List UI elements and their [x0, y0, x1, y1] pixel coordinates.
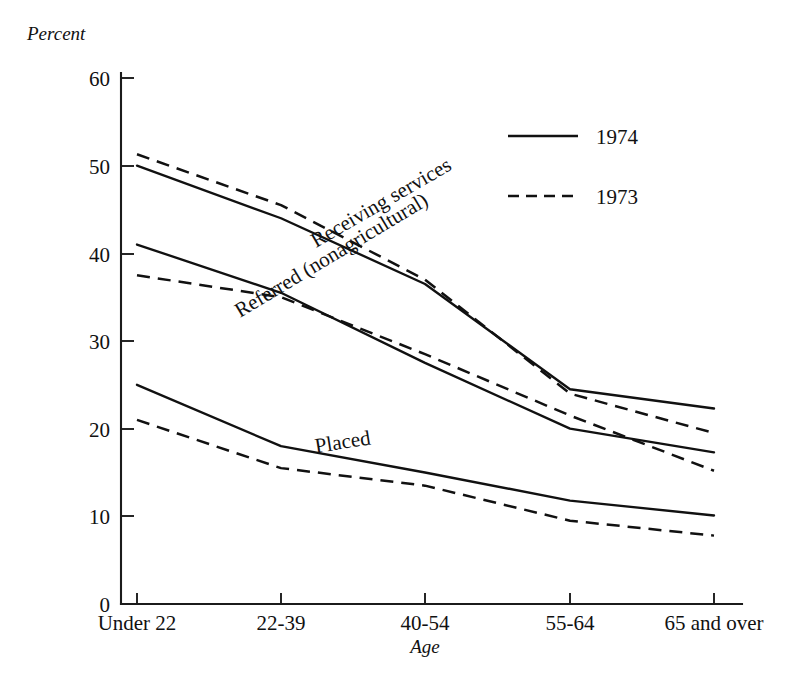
y-tick-label: 10 — [89, 505, 110, 529]
x-tick-label: 55-64 — [546, 611, 595, 635]
y-axis-tick-labels: 60 50 40 30 20 10 0 — [89, 67, 110, 617]
annotation-placed: Placed — [313, 425, 373, 458]
x-tick-label: Under 22 — [98, 611, 177, 635]
legend-label-1973: 1973 — [596, 185, 638, 209]
y-tick-label: 30 — [89, 330, 110, 354]
legend-label-1974: 1974 — [596, 125, 639, 149]
y-axis-title: Percent — [26, 23, 86, 44]
x-axis-tick-labels: Under 22 22-39 40-54 55-64 65 and over — [98, 611, 764, 635]
line-chart-plot: 60 50 40 30 20 10 0 Percent Under 22 22-… — [0, 0, 793, 686]
chart-legend: 1974 1973 — [508, 125, 639, 209]
x-tick-label: 22-39 — [257, 611, 306, 635]
x-tick-label: 65 and over — [664, 611, 763, 635]
x-axis-ticks — [137, 593, 714, 604]
y-tick-label: 50 — [89, 155, 110, 179]
y-tick-label: 60 — [89, 67, 110, 91]
annotation-referred: Referred (nonagricultural) — [230, 188, 432, 322]
chart-figure: 60 50 40 30 20 10 0 Percent Under 22 22-… — [0, 0, 793, 686]
series-line — [137, 275, 714, 471]
y-tick-label: 40 — [89, 243, 110, 267]
y-axis-ticks — [121, 78, 134, 516]
x-tick-label: 40-54 — [401, 611, 450, 635]
x-axis-title: Age — [408, 636, 440, 657]
y-tick-label: 20 — [89, 418, 110, 442]
